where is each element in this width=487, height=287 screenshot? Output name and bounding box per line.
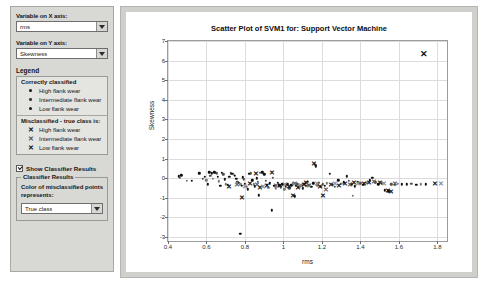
legend-title: Legend <box>11 67 113 76</box>
x-tick-label: 0.6 <box>202 244 210 250</box>
classifier-results-description: Color of misclassified points represents… <box>21 184 103 199</box>
show-classifier-results-checkbox[interactable] <box>16 165 23 172</box>
scatter-point-correct <box>420 183 422 185</box>
plot-area: -3-2-1012345670.40.60.811.21.41.61.8 ✕✕✕… <box>167 40 448 242</box>
scatter-point-correct <box>211 177 213 179</box>
dot-marker-icon <box>26 86 35 95</box>
scatter-point-correct <box>272 177 274 179</box>
y-tick-label: 4 <box>162 97 165 103</box>
x-marker-icon: ✕ <box>26 143 35 153</box>
scatter-point-correct <box>270 209 272 211</box>
scatter-point-correct <box>410 183 412 185</box>
legend-label: High flank wear <box>35 88 80 94</box>
scatter-point-correct <box>352 195 354 197</box>
y-axis-variable-label: Variable on Y axis: <box>11 40 113 48</box>
scatter-point-misclassified: ✕ <box>247 181 253 188</box>
x-tick-label: 1.4 <box>356 244 364 250</box>
scatter-point-correct <box>258 194 260 196</box>
scatter-point-misclassified: ✕ <box>226 184 232 191</box>
scatter-point-correct <box>218 180 220 182</box>
scatter-point-correct <box>201 178 203 180</box>
classifier-results-group: Classifier Results Color of misclassifie… <box>16 177 108 221</box>
chart-panel: Scatter Plot of SVM1 for: Support Vector… <box>120 6 478 278</box>
scatter-point-misclassified: ✕ <box>388 188 394 195</box>
scatter-point-misclassified: ✕ <box>311 161 317 168</box>
y-tick-label: 3 <box>162 116 165 122</box>
dot-marker-icon <box>26 104 35 113</box>
scatter-point-correct <box>328 173 330 175</box>
scatter-point-correct <box>228 175 230 177</box>
y-tick-label: -2 <box>160 214 165 220</box>
scatter-point-misclassified: ✕ <box>290 193 296 200</box>
y-tick-label: 7 <box>162 38 165 44</box>
legend-heading-correct: Correctly classified <box>17 79 107 86</box>
scatter-point-correct <box>219 185 221 187</box>
y-tick-label: -1 <box>160 195 165 201</box>
scatter-point-correct <box>198 172 200 174</box>
control-panel: Variable on X axis: rms Variable on Y ax… <box>10 6 114 272</box>
classifier-results-group-title: Classifier Results <box>21 174 75 180</box>
scatter-point-misclassified: ✕ <box>306 183 312 190</box>
misclassified-color-select[interactable]: True class <box>21 203 103 214</box>
y-tick-label: 5 <box>162 77 165 83</box>
x-tick-label: 0.8 <box>241 244 249 250</box>
scatter-point-misclassified: ✕ <box>438 181 444 188</box>
legend-item-correct-low: Low flank wear <box>17 104 107 113</box>
misclassified-color-value: True class <box>22 206 52 212</box>
scatter-point-correct <box>415 183 417 185</box>
chevron-down-icon[interactable] <box>96 22 107 31</box>
scatter-point-correct <box>179 177 181 179</box>
legend-label: Low flank wear <box>35 106 79 112</box>
scatter-point-correct <box>346 175 348 177</box>
x-tick-label: 1.6 <box>395 244 403 250</box>
scatter-point-correct <box>405 183 407 185</box>
y-tick-label: 2 <box>162 136 165 142</box>
y-tick-label: 6 <box>162 58 165 64</box>
y-axis-label: Skewness <box>148 86 155 146</box>
x-tick-label: 1.2 <box>318 244 326 250</box>
scatter-point-misclassified: ✕ <box>269 170 275 177</box>
scatter-point-correct <box>243 178 245 180</box>
legend-label: Intermediate flank wear <box>35 97 101 103</box>
y-tick-label: 1 <box>162 156 165 162</box>
scatter-point-correct <box>401 183 403 185</box>
legend-section-misclassified: Misclassified - true class is: ✕ High fl… <box>17 115 107 154</box>
legend-label: High flank wear <box>35 127 80 133</box>
scatter-point-misclassified: ✕ <box>239 195 245 202</box>
x-axis-variable-label: Variable on X axis: <box>11 13 113 21</box>
scatter-point-correct <box>217 176 219 178</box>
legend-box: Correctly classified High flank wear Int… <box>16 76 108 155</box>
scatter-point-misclassified: ✕ <box>234 182 240 189</box>
scatter-point-misclassified: ✕ <box>392 181 398 188</box>
show-classifier-results-label: Show Classifier Results <box>23 165 96 172</box>
y-axis-variable-select[interactable]: Skewness <box>16 48 108 59</box>
scatter-point-correct <box>239 232 241 234</box>
scatter-point-misclassified: ✕ <box>317 184 323 191</box>
x-tick-label: 1.8 <box>433 244 441 250</box>
y-tick-label: 0 <box>162 175 165 181</box>
scatter-point-correct <box>224 178 226 180</box>
show-classifier-results-row[interactable]: Show Classifier Results <box>11 163 113 173</box>
chevron-down-icon[interactable] <box>91 204 102 213</box>
x-axis-variable-select[interactable]: rms <box>16 21 108 32</box>
scatter-point-misclassified: ✕ <box>286 184 292 191</box>
scatter-point-misclassified: ✕ <box>420 50 428 59</box>
x-tick-label: 1 <box>282 244 285 250</box>
scatter-point-correct <box>180 174 182 176</box>
scatter-points-layer: ✕✕✕✕✕✕✕✕✕✕✕✕✕✕✕✕✕✕✕✕✕✕✕✕✕✕✕✕✕✕✕✕✕✕✕✕✕✕✕✕… <box>168 41 447 241</box>
legend-item-correct-high: High flank wear <box>17 86 107 95</box>
scatter-point-correct <box>425 183 427 185</box>
legend-section-correct: Correctly classified High flank wear Int… <box>17 77 107 115</box>
scatter-point-correct <box>205 179 207 181</box>
dot-marker-icon <box>26 95 35 104</box>
legend-item-correct-intermediate: Intermediate flank wear <box>17 95 107 104</box>
scatter-point-correct <box>263 173 265 175</box>
scatter-point-correct <box>207 183 209 185</box>
chevron-down-icon[interactable] <box>96 49 107 58</box>
scatter-point-correct <box>204 176 206 178</box>
y-axis-variable-value: Skewness <box>17 51 47 57</box>
application-window: Variable on X axis: rms Variable on Y ax… <box>0 0 487 287</box>
scatter-point-correct <box>185 179 187 181</box>
scatter-point-misclassified: ✕ <box>264 183 270 190</box>
x-axis-label: rms <box>167 258 448 265</box>
